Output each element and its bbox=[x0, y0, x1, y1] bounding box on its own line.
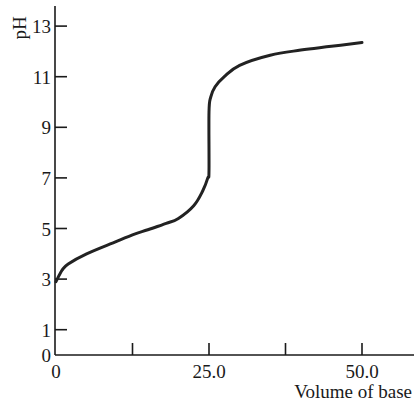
y-tick-label: 5 bbox=[42, 219, 52, 240]
titration-curve-line bbox=[56, 43, 362, 282]
y-tick-label: 7 bbox=[42, 168, 52, 189]
axes bbox=[55, 6, 414, 355]
y-tick-label: 13 bbox=[32, 16, 51, 37]
y-tick-label: 1 bbox=[42, 320, 52, 341]
x-axis-title: Volume of base bbox=[294, 381, 412, 402]
y-tick-label: 11 bbox=[33, 67, 51, 88]
y-tick-label: 9 bbox=[42, 117, 52, 138]
y-tick-label: 3 bbox=[42, 269, 52, 290]
y-ticks: 0135791113 bbox=[32, 16, 67, 366]
x-ticks: 025.050.0 bbox=[51, 343, 378, 382]
y-axis-title: pH bbox=[9, 16, 30, 40]
x-tick-label: 0 bbox=[51, 361, 61, 382]
titration-chart: 0135791113 025.050.0 pH Volume of base bbox=[0, 0, 417, 406]
x-tick-label: 25.0 bbox=[192, 361, 225, 382]
x-tick-label: 50.0 bbox=[345, 361, 378, 382]
y-tick-label: 0 bbox=[42, 345, 52, 366]
series-group bbox=[56, 43, 362, 282]
